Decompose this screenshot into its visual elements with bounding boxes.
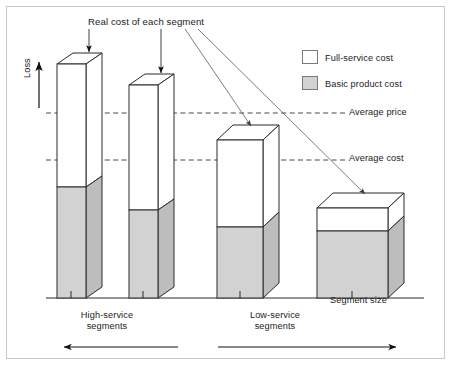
group-label-low-service-line1: Low-service [250,310,300,320]
bar-3-side-face-basic [263,212,279,298]
bar-4-front-full-service [317,208,388,231]
bar-2-front-basic-product [129,210,158,298]
bar-2-side-face-basic [158,199,174,298]
bar-1-front-full-service [57,64,86,187]
bar-2-side-face-full-service [158,74,174,210]
group-label-low-service: Low-servicesegments [230,310,320,332]
reference-line-label-average-price: Average price [349,107,407,118]
bar-segment-1 [57,53,102,298]
bar-3-front-full-service [217,140,263,227]
bar-2-front-full-service [129,85,158,210]
bar-segment-4 [317,193,404,298]
bar-1-front-basic-product [57,187,86,298]
legend-label-basic-product: Basic product cost [325,79,402,90]
y-axis-label-loss: Loss [22,58,33,78]
bar-3-front-basic-product [217,227,263,298]
reference-line-label-average-cost: Average cost [349,153,404,164]
bar-segment-3 [217,125,279,298]
legend-swatch-full-service-icon [302,50,318,64]
bar-4-side-face-basic [388,216,404,298]
chart-figure: Real cost of each segment Average price … [0,0,457,372]
bar-segment-2 [129,74,174,298]
bar-1-side-face-basic [86,176,102,298]
group-label-high-service: High-servicesegments [62,310,152,332]
chart-title: Real cost of each segment [88,16,204,27]
group-label-low-service-line2: segments [255,321,296,331]
bar-3-side-face-full-service [263,125,279,227]
bar-4-front-basic-product [317,231,388,298]
callout-arrow-to-bar-3 [185,29,251,126]
legend-swatch-basic-product-icon [302,76,318,90]
x-axis-label-segment-size: Segment size [330,295,387,306]
group-label-high-service-line1: High-service [81,310,133,320]
bar-1-side-face-full-service [86,53,102,187]
legend-label-full-service: Full-service cost [325,53,393,64]
group-label-high-service-line2: segments [87,321,128,331]
